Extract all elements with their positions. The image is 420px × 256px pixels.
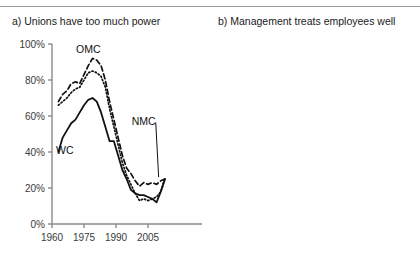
x-tick-label: 1975	[73, 232, 96, 243]
x-tick-label: 1960	[41, 232, 64, 243]
x-tick-label: 2005	[137, 232, 160, 243]
y-tick-label: 80%	[25, 75, 45, 86]
y-tick-label: 60%	[25, 111, 45, 122]
y-tick-label: 40%	[25, 147, 45, 158]
series-annotation-nmc: NMC	[132, 115, 156, 127]
panel-a-plot: 0%20%40%60%80%100%1960197519902005OMCWCN…	[0, 0, 210, 256]
y-tick-label: 100%	[19, 39, 45, 50]
panel-b: b) Management treats employees well 0%20…	[210, 0, 420, 256]
panel-a: a) Unions have too much power 0%20%40%60…	[0, 0, 210, 256]
series-line-nmc	[58, 71, 165, 201]
x-tick-label: 1990	[105, 232, 128, 243]
series-annotation-omc: OMC	[76, 43, 101, 55]
y-tick-label: 20%	[25, 183, 45, 194]
y-tick-label: 0%	[31, 219, 46, 230]
panel-b-plot: 0%20%40%1960197519902005OMCNMCWC	[210, 0, 420, 256]
series-annotation-wc: WC	[56, 144, 74, 156]
